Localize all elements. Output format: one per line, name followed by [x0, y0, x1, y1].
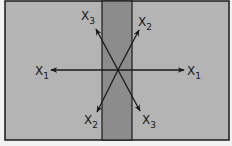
axes-diagram: X1 X1 X3 X2 X2 X3 — [0, 0, 232, 146]
diagram-canvas: X1 X1 X3 X2 X2 X3 — [0, 0, 232, 146]
